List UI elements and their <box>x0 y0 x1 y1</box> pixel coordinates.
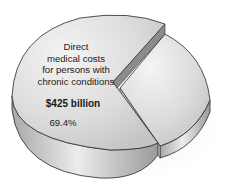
pie-chart <box>0 0 227 189</box>
slice-percent: 69.4% <box>38 117 88 128</box>
slice-description: Direct medical costs for persons with ch… <box>36 41 116 87</box>
slice-description-line-3: for persons with <box>36 64 116 76</box>
slice-description-line-4: chronic conditions <box>36 76 116 88</box>
slice-description-line-1: Direct <box>36 41 116 53</box>
slice-value: $425 billion <box>38 98 108 109</box>
slice-description-line-2: medical costs <box>36 53 116 65</box>
